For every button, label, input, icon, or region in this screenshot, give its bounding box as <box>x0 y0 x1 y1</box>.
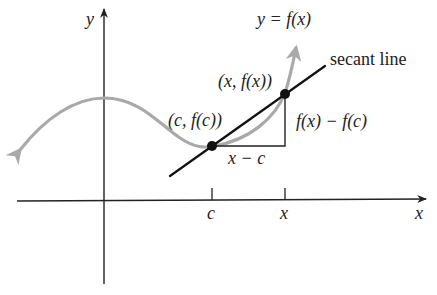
secant-line-diagram: y x c x y = f(x) secant line (x, f(x)) (… <box>0 0 437 295</box>
secant-label: secant line <box>330 49 406 69</box>
tick-c-label: c <box>207 203 215 223</box>
x-axis-label: x <box>414 203 423 223</box>
point-x <box>280 89 290 99</box>
x-axis <box>17 199 426 201</box>
curve-label: y = f(x) <box>255 9 311 30</box>
rise-label: f(x) − f(c) <box>296 111 367 132</box>
tick-x-label: x <box>279 203 288 223</box>
point-c-label: (c, f(c)) <box>168 110 222 131</box>
function-curve <box>20 48 296 150</box>
run-label: x − c <box>227 148 265 168</box>
point-c <box>207 141 217 151</box>
point-x-label: (x, f(x)) <box>218 71 272 92</box>
y-axis-label: y <box>84 9 94 29</box>
